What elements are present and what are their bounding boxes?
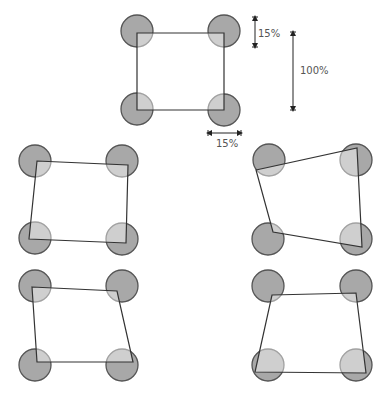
corner-size-label-horizontal: 15% [216, 138, 238, 149]
variant-bottom-left [19, 270, 138, 381]
quad-interior [29, 161, 128, 243]
variant-middle-right [252, 144, 372, 255]
variant-middle-left [19, 145, 138, 255]
reference-square [121, 15, 240, 126]
corner-tolerance-diagram: 15% 100% 15% [0, 0, 390, 395]
quad-interior [255, 293, 366, 373]
variant-bottom-right [252, 270, 372, 381]
quad-interior [32, 287, 133, 362]
corner-size-horizontal-dimension: 15% [208, 130, 241, 149]
corner-size-vertical-dimension: 15% [252, 17, 280, 47]
quad-interior [137, 33, 224, 110]
full-size-label: 100% [300, 65, 329, 76]
full-size-dimension: 100% [290, 32, 329, 110]
corner-size-label-vertical: 15% [258, 28, 280, 39]
